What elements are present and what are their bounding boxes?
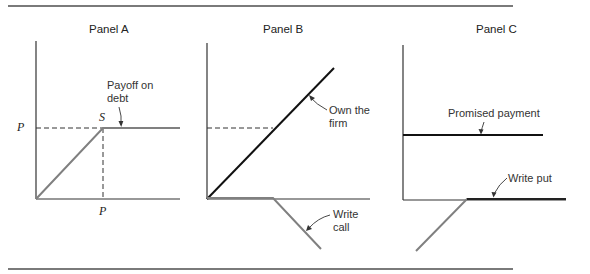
panel-b-own-arrow (311, 98, 327, 110)
panel-a-debt-payoff-line (36, 128, 180, 199)
label-line: Own the (329, 104, 370, 117)
label-line: call (333, 221, 358, 234)
panel-c-write-put-label: Write put (508, 172, 552, 185)
panel-a (36, 41, 180, 199)
arrowhead-icon (119, 121, 124, 127)
panel-a-y-tick-p: P (17, 120, 24, 135)
panel-b-own-firm-label: Own the firm (329, 104, 370, 130)
label-line: Payoff on (107, 79, 153, 92)
panel-b-call-arrow (309, 215, 330, 228)
label-line: debt (107, 92, 153, 105)
diagram-canvas (0, 0, 590, 274)
panel-b-write-call-line (207, 198, 321, 249)
panel-c-write-put-line (416, 199, 566, 251)
label-line: Write (333, 208, 358, 221)
panel-c-promised-payment-label: Promised payment (448, 107, 540, 120)
arrowhead-icon (479, 129, 484, 135)
panel-a-kink-s: S (99, 110, 105, 125)
panel-b-own-firm-line (207, 68, 334, 199)
panel-a-debt-label: Payoff on debt (107, 79, 153, 105)
panel-c-put-arrow (494, 178, 507, 194)
panel-b-write-call-label: Write call (333, 208, 358, 234)
arrowhead-icon (309, 95, 315, 101)
arrowhead-icon (492, 192, 497, 198)
panel-c (403, 45, 566, 251)
label-line: firm (329, 117, 370, 130)
panel-a-x-tick-p: P (99, 204, 106, 219)
